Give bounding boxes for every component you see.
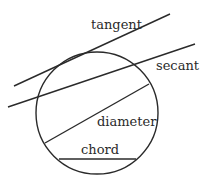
- diameter-label: diameter: [97, 114, 157, 129]
- circle-lines-diagram: tangent secant diameter chord: [0, 0, 203, 184]
- tangent-label: tangent: [91, 17, 143, 32]
- chord-label: chord: [81, 142, 119, 157]
- secant-label: secant: [156, 58, 200, 73]
- diagram-canvas: tangent secant diameter chord: [0, 0, 203, 184]
